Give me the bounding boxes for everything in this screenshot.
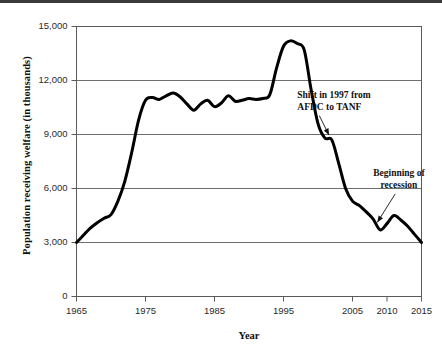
- annotation-arrowhead-beginning-of-recession: [377, 216, 383, 223]
- x-tick-label-1985: 1985: [195, 305, 235, 316]
- y-tick-label-9000: 9,000: [8, 128, 68, 139]
- annotation-shift-1997-line-2: AFDC to TANF: [297, 101, 370, 113]
- annotation-beginning-of-recession: Beginning ofrecession: [373, 167, 424, 191]
- annotation-shift-1997: Shift in 1997 fromAFDC to TANF: [297, 89, 370, 113]
- data-series-line: [77, 41, 422, 243]
- chart-figure: Population receiving welfare (in thousan…: [0, 0, 442, 357]
- annotation-beginning-of-recession-line-2: recession: [373, 179, 424, 191]
- x-tick-label-1995: 1995: [264, 305, 304, 316]
- x-tick-label-1965: 1965: [57, 305, 97, 316]
- x-tick-mark-group: [77, 297, 422, 302]
- y-tick-label-3000: 3,000: [8, 236, 68, 247]
- y-tick-label-0: 0: [8, 290, 68, 301]
- y-tick-label-12000: 12,000: [8, 74, 68, 85]
- y-tick-label-6000: 6,000: [8, 182, 68, 193]
- x-tick-label-1975: 1975: [126, 305, 166, 316]
- y-tick-mark-group: [72, 27, 77, 297]
- x-tick-label-2015: 2015: [402, 305, 442, 316]
- annotation-beginning-of-recession-line-1: Beginning of: [373, 167, 424, 179]
- y-tick-label-15000: 15,000: [8, 20, 68, 31]
- annotation-shift-1997-line-1: Shift in 1997 from: [297, 89, 370, 101]
